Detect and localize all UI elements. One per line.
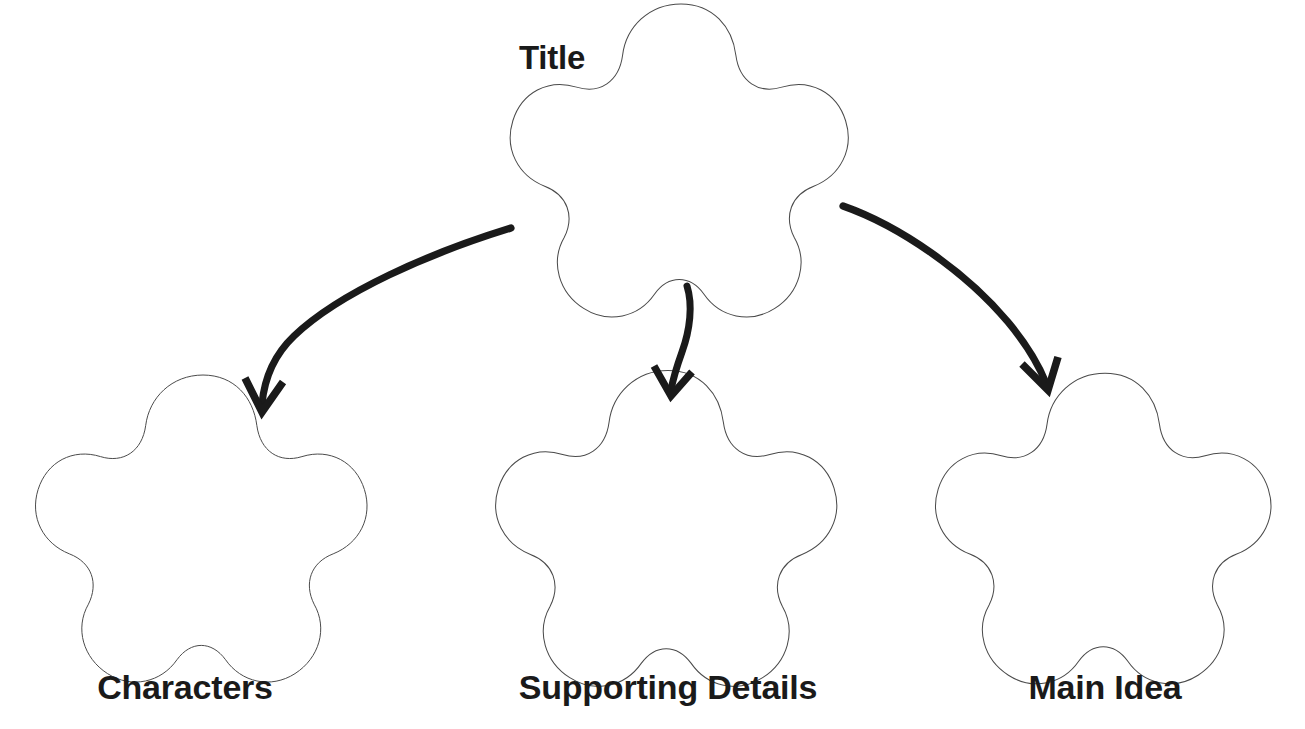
branch-label-characters: Characters [0, 670, 370, 704]
arrow-title-to-supporting-details [654, 286, 692, 396]
worksheet-canvas: Title Characters Supporting Details Main… [0, 0, 1305, 729]
cloud-shape-supporting-details[interactable] [496, 370, 837, 686]
arrow-title-to-main-idea [843, 206, 1058, 390]
page-title: Title [519, 41, 585, 74]
arrow-title-to-characters [245, 228, 511, 412]
cloud-shape-main-idea[interactable] [936, 373, 1271, 684]
branch-label-supporting-details: Supporting Details [482, 670, 854, 704]
cloud-shape-characters[interactable] [35, 375, 367, 682]
branch-label-main-idea: Main Idea [925, 670, 1285, 704]
graphic-organizer-diagram [0, 0, 1305, 729]
